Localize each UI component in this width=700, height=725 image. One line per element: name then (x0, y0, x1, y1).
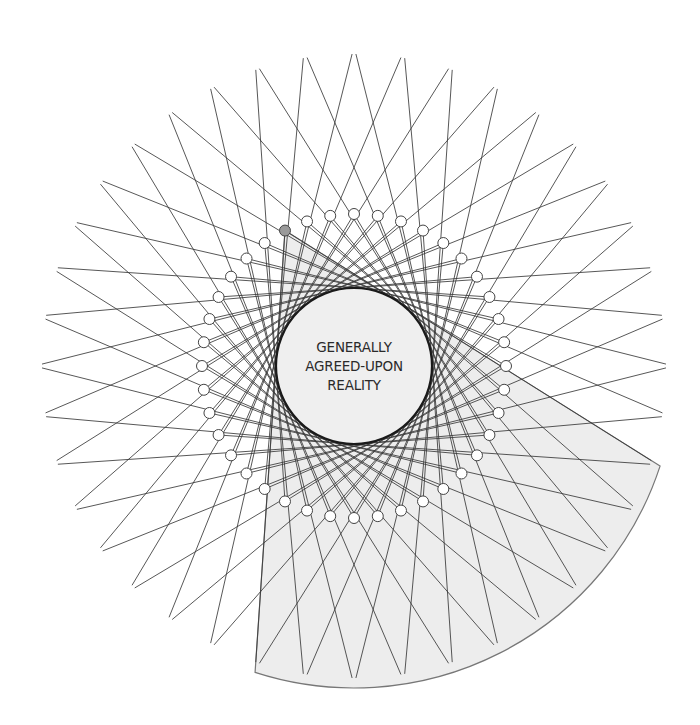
perspective-node (325, 210, 336, 221)
perspective-node (213, 430, 224, 441)
highlighted-node (279, 225, 290, 236)
perspective-node (471, 271, 482, 282)
label-line-3: REALITY (276, 376, 432, 395)
perspective-node (226, 271, 237, 282)
label-line-1: GENERALLY (276, 338, 432, 357)
perspective-node (395, 505, 406, 516)
perspective-node (302, 505, 313, 516)
perspective-node (501, 361, 512, 372)
perspective-node (198, 337, 209, 348)
perspective-node (349, 209, 360, 220)
perspective-node (438, 483, 449, 494)
perspective-node (259, 238, 270, 249)
perspective-node (325, 511, 336, 522)
perspective-node (499, 337, 510, 348)
perspective-node (198, 384, 209, 395)
center-label: GENERALLY AGREED-UPON REALITY (276, 338, 432, 395)
perspective-node (302, 216, 313, 227)
perspective-node (372, 511, 383, 522)
perspective-node (259, 483, 270, 494)
perspective-node (241, 253, 252, 264)
perspective-node (204, 407, 215, 418)
perspective-node (279, 496, 290, 507)
perspective-node (499, 384, 510, 395)
perspective-node (226, 450, 237, 461)
perspective-node (372, 210, 383, 221)
perspective-node (395, 216, 406, 227)
perspective-node (484, 430, 495, 441)
perspective-node (197, 361, 208, 372)
perspective-node (418, 225, 429, 236)
perspective-node (438, 238, 449, 249)
perspective-node (456, 468, 467, 479)
perspective-node (456, 253, 467, 264)
perspective-node (241, 468, 252, 479)
label-line-2: AGREED-UPON (276, 357, 432, 376)
perspective-node (493, 407, 504, 418)
perspective-node (349, 513, 360, 524)
perspective-node (484, 291, 495, 302)
perspective-node (204, 314, 215, 325)
perspective-node (471, 450, 482, 461)
perspective-node (493, 314, 504, 325)
perspective-node (418, 496, 429, 507)
perspective-node (213, 291, 224, 302)
